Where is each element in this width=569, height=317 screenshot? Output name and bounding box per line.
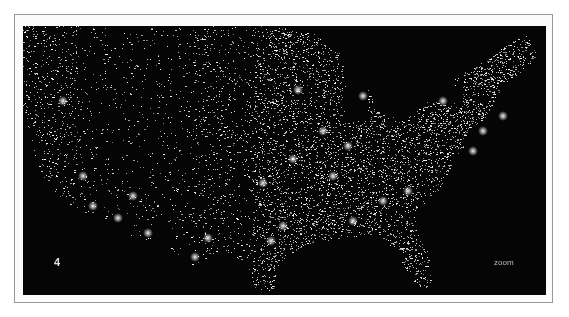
zoom-link[interactable]: zoom: [494, 258, 514, 268]
us-night-lights-map: 4 zoom: [23, 26, 546, 295]
city-lights-layer: [23, 26, 546, 295]
panel-number: 4: [54, 257, 60, 267]
